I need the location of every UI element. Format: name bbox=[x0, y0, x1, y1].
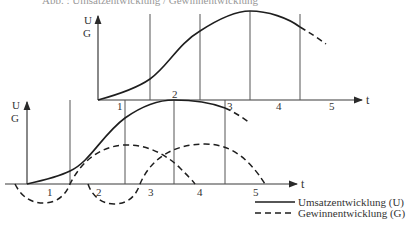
lower-phase-label: 5 bbox=[253, 186, 259, 198]
lower-phase-label: 4 bbox=[197, 186, 203, 198]
lower-phase-label: 2 bbox=[96, 186, 102, 198]
upper-phase-label: 5 bbox=[329, 100, 335, 112]
lower-x-label-t: t bbox=[301, 177, 305, 191]
lower-profit-curve-2 bbox=[88, 144, 265, 204]
lower-y-label-g: G bbox=[11, 112, 19, 124]
product-life-cycle-diagram: Abb. : Umsatzentwicklung / Gewinnentwick… bbox=[0, 0, 411, 227]
lower-sales-curve-forecast bbox=[225, 108, 250, 123]
caption: Abb. : Umsatzentwicklung / Gewinnentwick… bbox=[42, 0, 258, 6]
upper-x-label-t: t bbox=[366, 93, 370, 107]
upper-phase-label: 2 bbox=[172, 88, 178, 100]
caption-text: Abb. : Umsatzentwicklung / Gewinnentwick… bbox=[42, 0, 258, 6]
lower-phase-label: 1 bbox=[47, 186, 53, 198]
upper-phase-label: 4 bbox=[276, 100, 282, 112]
upper-y-label-u: U bbox=[84, 14, 92, 26]
lower-y-label-u: U bbox=[12, 99, 20, 111]
upper-chart: U G t 1 2 3 4 5 bbox=[83, 11, 370, 112]
upper-sales-curve-forecast bbox=[300, 27, 326, 44]
legend-label-profit: Gewinnentwicklung (G) bbox=[298, 207, 406, 220]
lower-profit-curve-1 bbox=[15, 145, 195, 203]
lower-sales-curve bbox=[27, 100, 225, 184]
upper-y-label-g: G bbox=[83, 27, 91, 39]
lower-phase-label: 3 bbox=[148, 186, 154, 198]
lower-chart: U G t 1 2 3 4 5 bbox=[5, 99, 305, 204]
upper-sales-curve bbox=[98, 11, 300, 100]
legend: Umsatzentwicklung (U) Gewinnentwicklung … bbox=[255, 196, 406, 220]
upper-phase-label: 1 bbox=[117, 100, 123, 112]
